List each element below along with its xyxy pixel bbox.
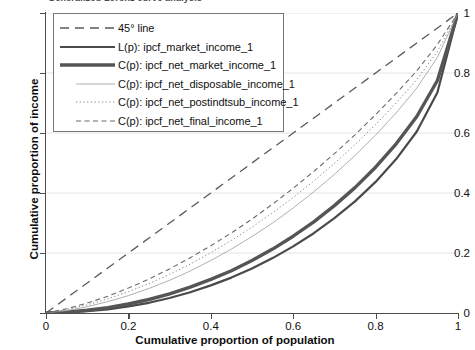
y-tick-mark [40, 73, 46, 74]
x-tick-label: 0.6 [273, 320, 313, 332]
legend-item[interactable]: C(p): ipcf_net_postindtsub_income_1 [54, 93, 283, 112]
legend-key-swatch [58, 114, 118, 128]
legend-key-swatch [58, 40, 118, 54]
y-axis-title: Cumulative proportion of income [28, 44, 40, 294]
legend-key-swatch [58, 77, 118, 91]
chart-title: Generalized Lorenz curve analysis [48, 0, 202, 3]
legend-item-label: C(p): ipcf_net_disposable_income_1 [118, 78, 295, 90]
x-tick-label: 0.4 [191, 320, 231, 332]
legend-item-label: C(p): ipcf_net_market_income_1 [118, 59, 276, 71]
legend-item[interactable]: C(p): ipcf_net_disposable_income_1 [54, 75, 283, 94]
legend: 45° lineL(p): ipcf_market_income_1C(p): … [53, 13, 284, 132]
y-tick-label: 0.8 [434, 67, 470, 79]
x-axis-line [45, 313, 458, 314]
legend-item-label: C(p): ipcf_net_postindtsub_income_1 [118, 96, 298, 108]
x-tick-mark [211, 313, 212, 319]
y-tick-label: 0.4 [434, 187, 470, 199]
y-tick-label: 0.2 [434, 247, 470, 259]
x-tick-mark [46, 313, 47, 319]
y-tick-mark [40, 133, 46, 134]
y-tick-label: 1 [434, 7, 470, 19]
y-axis-line [45, 12, 46, 314]
legend-item[interactable]: C(p): ipcf_net_market_income_1 [54, 56, 283, 75]
x-tick-mark [376, 313, 377, 319]
x-tick-label: 0.8 [356, 320, 396, 332]
x-tick-label: 0 [26, 320, 66, 332]
y-tick-mark [40, 13, 46, 14]
y-tick-label: 0.6 [434, 127, 470, 139]
legend-item-label: 45° line [118, 22, 154, 34]
x-tick-label: 1 [438, 320, 475, 332]
x-tick-label: 0.2 [108, 320, 148, 332]
x-tick-mark [458, 313, 459, 319]
y-tick-mark [40, 253, 46, 254]
legend-item[interactable]: L(p): ipcf_market_income_1 [54, 38, 283, 57]
legend-key-swatch [58, 95, 118, 109]
y-tick-mark [40, 193, 46, 194]
legend-key-swatch [58, 21, 118, 35]
legend-key-swatch [58, 58, 118, 72]
legend-item-label: L(p): ipcf_market_income_1 [118, 41, 253, 53]
y-tick-label: 0 [434, 307, 470, 319]
legend-item-label: C(p): ipcf_net_final_income_1 [118, 115, 263, 127]
legend-item[interactable]: 45° line [54, 19, 283, 38]
x-tick-mark [293, 313, 294, 319]
legend-item[interactable]: C(p): ipcf_net_final_income_1 [54, 112, 283, 131]
x-axis-title: Cumulative proportion of population [0, 334, 470, 346]
x-tick-mark [128, 313, 129, 319]
